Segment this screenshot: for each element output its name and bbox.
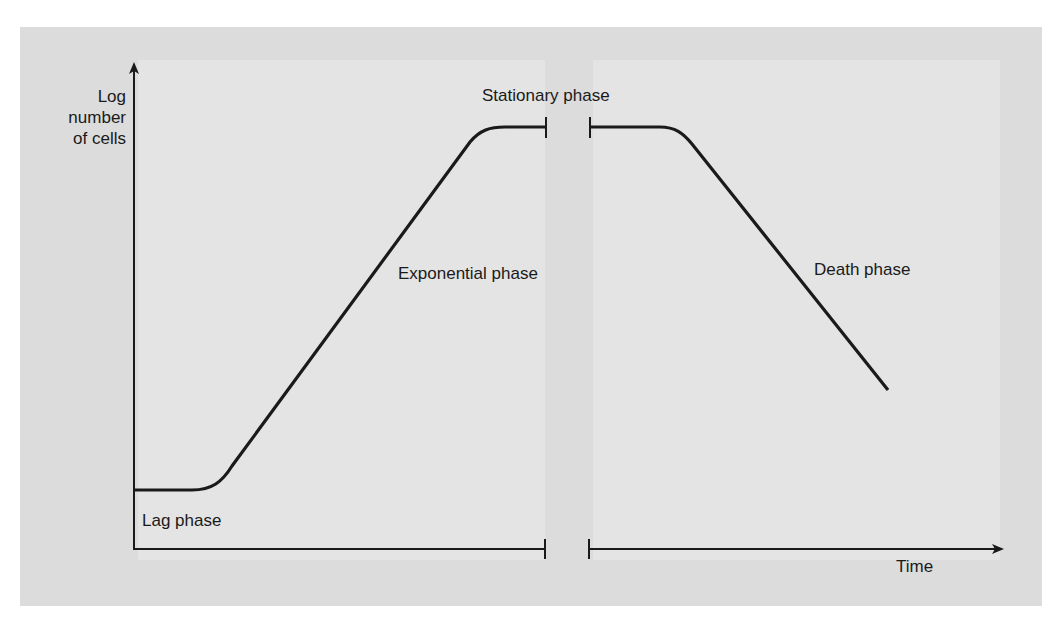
x-axis-label: Time bbox=[896, 556, 933, 577]
stationary-phase-label: Stationary phase bbox=[482, 85, 610, 106]
death-phase-label: Death phase bbox=[814, 259, 910, 280]
y-axis-label-line-2: number bbox=[62, 107, 126, 128]
y-axis-label-line-3: of cells bbox=[62, 128, 126, 149]
growth-curve-left bbox=[134, 127, 545, 490]
lag-phase-label: Lag phase bbox=[142, 510, 221, 531]
y-axis-label: Log number of cells bbox=[62, 86, 126, 149]
y-axis-label-line-1: Log bbox=[62, 86, 126, 107]
exponential-phase-label: Exponential phase bbox=[398, 263, 538, 284]
